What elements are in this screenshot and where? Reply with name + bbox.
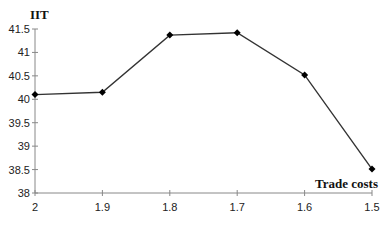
y-tick-label: 41 — [18, 46, 30, 58]
x-tick-label: 1.5 — [364, 201, 379, 213]
x-tick-label: 1.6 — [297, 201, 312, 213]
y-tick-label: 38 — [18, 187, 30, 199]
data-point-marker — [234, 29, 241, 36]
x-axis-title: Trade costs — [315, 176, 378, 191]
line-chart: 3838.53939.54040.54141.5 21.91.81.71.61.… — [0, 0, 386, 225]
x-axis: 21.91.81.71.61.5 — [32, 190, 380, 213]
data-point-marker — [32, 91, 39, 98]
data-series — [32, 29, 376, 172]
y-tick-label: 39.5 — [9, 117, 30, 129]
y-axis: 3838.53939.54040.54141.5 — [9, 23, 38, 199]
y-tick-label: 38.5 — [9, 164, 30, 176]
y-tick-label: 40 — [18, 93, 30, 105]
y-axis-title: IIT — [30, 7, 49, 22]
x-tick-label: 2 — [32, 201, 38, 213]
series-line — [35, 33, 372, 169]
x-tick-label: 1.7 — [230, 201, 245, 213]
y-tick-label: 40.5 — [9, 70, 30, 82]
x-tick-label: 1.8 — [162, 201, 177, 213]
y-tick-label: 41.5 — [9, 23, 30, 35]
y-tick-label: 39 — [18, 140, 30, 152]
x-tick-label: 1.9 — [95, 201, 110, 213]
